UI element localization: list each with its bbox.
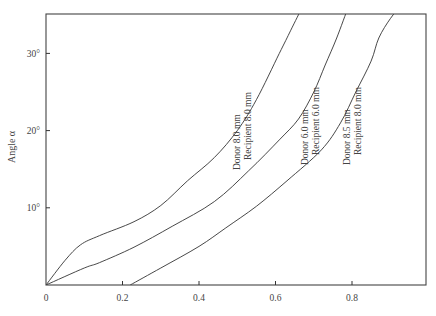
y-tick-label: 30° [27, 49, 41, 59]
x-axis: 00.20.40.60.8 [44, 281, 359, 303]
y-tick-label: 10° [27, 203, 41, 213]
curve-label-recipient: Recipient 8.0 mm [353, 87, 363, 155]
curve-label-donor: Donor 8.5 mm [342, 109, 352, 165]
y-axis-label: Angle α [6, 130, 17, 163]
x-tick-label: 0 [44, 293, 49, 303]
curve-label-donor: Donor 6.0 mm [300, 109, 310, 165]
x-tick-label: 0.8 [346, 293, 358, 303]
angle-chart: 00.20.40.60.8 10°20°30° Angle α Donor 8.… [0, 0, 436, 316]
curve-label-2: Donor 6.0 mmRecipient 6.0 mm [300, 87, 321, 165]
curve-series-1 [46, 7, 302, 285]
curve-label-donor: Donor 8.0 mm [232, 114, 242, 170]
x-tick-label: 0.4 [193, 293, 205, 303]
curve-label-3: Donor 8.5 mmRecipient 8.0 mm [342, 87, 363, 165]
curve-label-recipient: Recipient 8.0 mm [243, 92, 253, 160]
curve-label-1: Donor 8.0 mmRecipient 8.0 mm [232, 92, 253, 170]
x-tick-label: 0.2 [117, 293, 129, 303]
x-tick-label: 0.6 [270, 293, 282, 303]
curve-label-recipient: Recipient 6.0 mm [311, 87, 321, 155]
y-tick-label: 20° [27, 126, 41, 136]
curve-labels: Donor 8.0 mmRecipient 8.0 mmDonor 6.0 mm… [232, 87, 363, 170]
